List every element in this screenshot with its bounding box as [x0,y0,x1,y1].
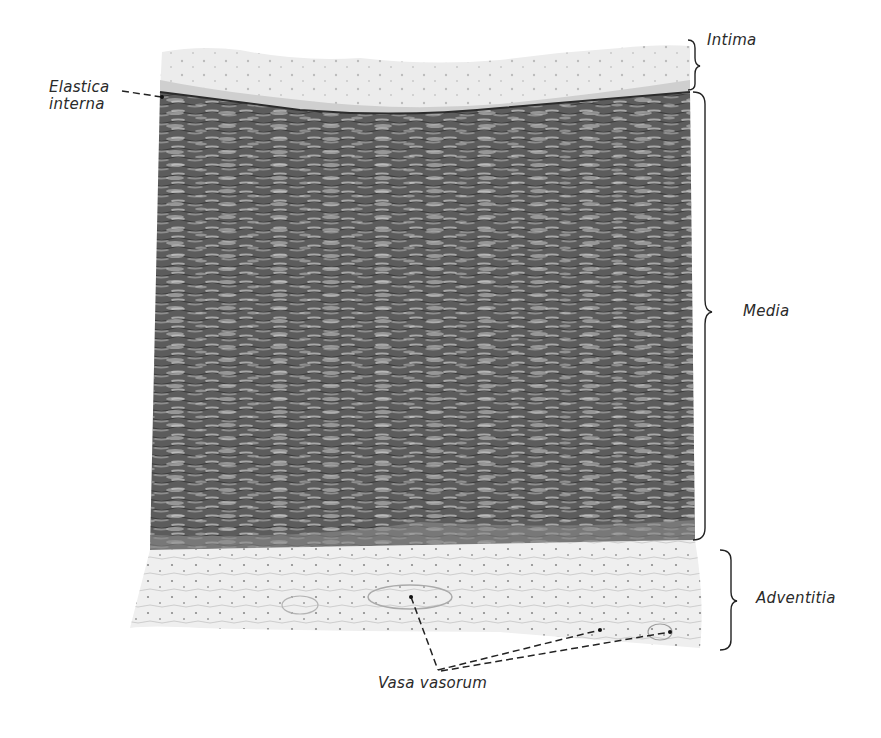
label-intima: Intima [707,32,757,49]
label-adventitia: Adventitia [756,590,836,607]
label-media: Media [743,303,790,320]
elastica-leader [122,91,162,97]
label-elastica-line1: Elastica [49,79,110,96]
label-elastica-interna: Elastica interna [49,79,110,113]
media-layer [150,92,695,555]
artery-section-illustration [0,0,881,738]
adventitia-brace [720,550,737,650]
media-brace [693,92,712,540]
histology-figure: Intima Media Adventitia Elastica interna… [0,0,881,738]
adventitia-layer [130,540,702,648]
label-elastica-line2: interna [49,96,110,113]
label-vasa-vasorum: Vasa vasorum [378,675,487,692]
